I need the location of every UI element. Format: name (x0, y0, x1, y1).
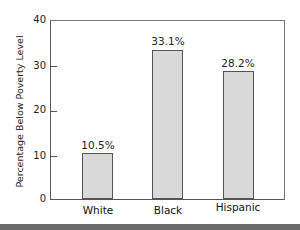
y-tickmark-10 (50, 156, 57, 157)
bar-value-label-black: 33.1% (143, 35, 193, 47)
y-axis-label: Percentage Below Poverty Level (14, 27, 25, 197)
bar-black (152, 50, 183, 199)
y-tick-0: 0 (26, 193, 46, 204)
x-label-hispanic: Hispanic (208, 201, 268, 213)
bar-white (82, 153, 113, 199)
x-label-black: Black (138, 204, 198, 216)
bar-value-label-hispanic: 28.2% (213, 57, 263, 69)
y-tick-30: 30 (26, 60, 46, 71)
x-label-white: White (68, 204, 128, 216)
bar-value-label-white: 10.5% (73, 139, 123, 151)
y-tickmark-20 (50, 111, 57, 112)
y-tickmark-30 (50, 66, 57, 67)
bar-hispanic (223, 71, 254, 199)
y-tick-20: 20 (26, 104, 46, 115)
y-tick-10: 10 (26, 150, 46, 161)
bottom-divider-band (0, 224, 300, 230)
y-tick-40: 40 (26, 14, 46, 25)
